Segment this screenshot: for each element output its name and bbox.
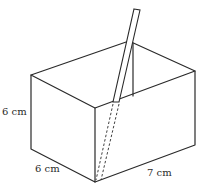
box-right-face — [95, 71, 195, 182]
straw — [113, 9, 140, 102]
depth-label: 6 cm — [35, 164, 60, 174]
straw-hidden — [96, 104, 119, 180]
length-label: 7 cm — [147, 168, 172, 178]
height-label: 6 cm — [2, 107, 27, 117]
diagram-canvas: 6 cm 6 cm 7 cm — [0, 0, 200, 184]
box-top-face — [31, 41, 195, 108]
straw-visible — [113, 9, 140, 102]
box-figure — [0, 0, 200, 184]
